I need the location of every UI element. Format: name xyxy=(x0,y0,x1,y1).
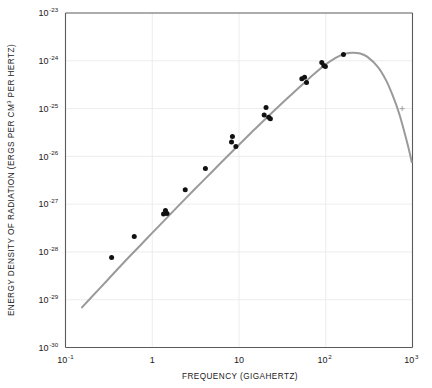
data-point xyxy=(132,234,137,239)
svg-text:10: 10 xyxy=(38,152,48,162)
svg-text:10: 10 xyxy=(38,343,48,353)
svg-text:-26: -26 xyxy=(49,149,59,156)
figure-root: 10-1110102103 10-2310-2410-2510-2610-271… xyxy=(0,0,432,388)
data-point xyxy=(262,113,267,118)
x-tick-label: 10 xyxy=(234,355,244,365)
svg-text:-30: -30 xyxy=(49,341,59,348)
data-point xyxy=(229,139,234,144)
chart-svg: 10-1110102103 10-2310-2410-2510-2610-271… xyxy=(0,0,432,388)
svg-text:3: 3 xyxy=(415,353,419,360)
chart-background xyxy=(0,0,432,388)
x-tick-label: 1 xyxy=(150,355,155,365)
svg-text:10: 10 xyxy=(38,104,48,114)
data-point xyxy=(323,64,328,69)
data-point xyxy=(183,187,188,192)
svg-text:-29: -29 xyxy=(49,293,59,300)
svg-text:10: 10 xyxy=(38,247,48,257)
svg-text:2: 2 xyxy=(328,353,332,360)
data-point xyxy=(304,80,309,85)
data-point xyxy=(165,211,170,216)
svg-text:-28: -28 xyxy=(49,245,59,252)
svg-text:-24: -24 xyxy=(49,54,59,61)
svg-text:-25: -25 xyxy=(49,102,59,109)
svg-text:FREQUENCY (GIGAHERTZ): FREQUENCY (GIGAHERTZ) xyxy=(182,372,298,381)
svg-text:-27: -27 xyxy=(49,197,59,204)
svg-text:10: 10 xyxy=(234,355,244,365)
svg-text:10: 10 xyxy=(38,56,48,66)
svg-text:ENERGY DENSITY OF RADIATION (E: ENERGY DENSITY OF RADIATION (ERGS PER CM… xyxy=(6,44,16,316)
data-point xyxy=(233,144,238,149)
data-point xyxy=(302,75,307,80)
svg-text:10: 10 xyxy=(404,355,414,365)
data-point xyxy=(203,166,208,171)
svg-text:10: 10 xyxy=(38,8,48,18)
svg-text:1: 1 xyxy=(150,355,155,365)
y-axis-title: ENERGY DENSITY OF RADIATION (ERGS PER CM… xyxy=(6,44,16,316)
data-point xyxy=(341,52,346,57)
svg-text:10: 10 xyxy=(57,355,67,365)
svg-text:-1: -1 xyxy=(68,353,74,360)
data-point xyxy=(268,116,273,121)
x-axis-title: FREQUENCY (GIGAHERTZ) xyxy=(182,372,298,381)
data-point xyxy=(109,255,114,260)
data-point xyxy=(264,105,269,110)
data-point xyxy=(230,134,235,139)
svg-text:10: 10 xyxy=(38,199,48,209)
svg-text:10: 10 xyxy=(38,295,48,305)
svg-text:10: 10 xyxy=(318,355,328,365)
svg-text:-23: -23 xyxy=(49,6,59,13)
